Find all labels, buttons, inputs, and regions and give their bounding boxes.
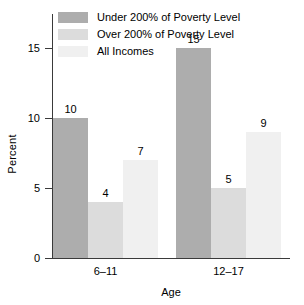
legend-item-over-200: Over 200% of Poverty Level [58, 27, 240, 42]
y-tick-mark-10 [45, 118, 53, 119]
legend-label-all-incomes: All Incomes [97, 46, 154, 57]
bar-value-group1-series2: 4 [88, 188, 123, 199]
bar-value-group1-series3: 7 [123, 146, 158, 157]
legend-label-over-200: Over 200% of Poverty Level [97, 29, 234, 40]
y-tick-mark-5 [45, 188, 53, 189]
legend-item-all-incomes: All Incomes [58, 44, 240, 59]
y-tick-label-15: 15 [0, 43, 40, 54]
x-group-label-12-17: 12–17 [176, 265, 281, 277]
y-tick-label-0: 0 [0, 253, 40, 264]
legend-item-under-200: Under 200% of Poverty Level [58, 10, 240, 25]
legend-label-under-200: Under 200% of Poverty Level [97, 12, 240, 23]
bar-group1-series1 [53, 118, 88, 258]
bar-chart: 15 10 5 0 Percent 10 4 7 6–11 15 5 9 12–… [0, 0, 304, 305]
x-group-label-6-11: 6–11 [53, 265, 158, 277]
bar-group1-series2 [88, 202, 123, 258]
x-axis-line [52, 258, 290, 259]
legend: Under 200% of Poverty Level Over 200% of… [58, 10, 240, 61]
y-tick-mark-0 [45, 258, 53, 259]
legend-swatch-icon-under-200 [58, 12, 88, 23]
bar-value-group2-series3: 9 [246, 118, 281, 129]
bar-group2-series1 [176, 48, 211, 258]
legend-swatch-icon-over-200 [58, 29, 88, 40]
bar-group2-series2 [211, 188, 246, 258]
bar-group1-series3 [123, 160, 158, 258]
y-axis-title: Percent [6, 114, 18, 194]
bar-group2-series3 [246, 132, 281, 258]
bar-value-group2-series2: 5 [211, 174, 246, 185]
legend-swatch-icon-all-incomes [58, 46, 88, 57]
x-axis-title: Age [52, 286, 290, 298]
y-tick-mark-15 [45, 48, 53, 49]
bar-value-group1-series1: 10 [53, 104, 88, 115]
